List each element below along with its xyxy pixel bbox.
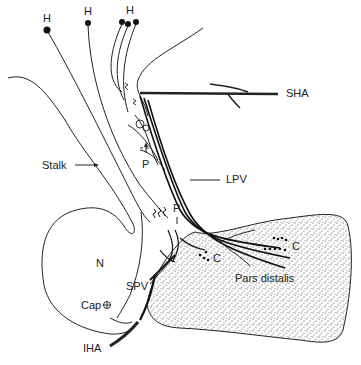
label-h2: H bbox=[84, 5, 92, 17]
label-c-right: C bbox=[292, 240, 300, 252]
median-eminence-contour bbox=[137, 28, 203, 116]
label-h1: H bbox=[43, 12, 51, 24]
label-cap: Cap bbox=[81, 299, 101, 311]
h-axon-3c bbox=[124, 24, 136, 112]
pituitary-portal-diagram: H H H Stalk P P SHA LPV N C C Pars dista… bbox=[0, 0, 361, 365]
superior-hypophyseal-artery bbox=[140, 93, 278, 94]
iha-branch bbox=[110, 318, 132, 323]
label-c-left: C bbox=[213, 252, 221, 264]
label-sha: SHA bbox=[286, 87, 309, 99]
label-n: N bbox=[96, 257, 104, 269]
label-lpv: LPV bbox=[226, 173, 247, 185]
h-neuron-1 bbox=[44, 27, 51, 34]
label-spv: SPV bbox=[126, 280, 149, 292]
h-axon-3a bbox=[111, 24, 122, 92]
h-axon-1 bbox=[48, 32, 150, 222]
h-axon-2 bbox=[88, 25, 168, 218]
label-h3: H bbox=[126, 4, 134, 16]
label-pars-distalis: Pars distalis bbox=[235, 272, 295, 284]
label-p-upper: P bbox=[142, 158, 149, 170]
label-p-lower: P bbox=[173, 202, 180, 214]
stalk-inner-line bbox=[117, 212, 142, 318]
sha-branch-lower bbox=[228, 94, 240, 108]
sha-branch-upper bbox=[210, 84, 248, 92]
neural-lobe-outline bbox=[8, 77, 138, 334]
label-stalk: Stalk bbox=[42, 159, 67, 171]
capillary-cap bbox=[103, 301, 111, 309]
label-iha: IHA bbox=[83, 342, 102, 354]
